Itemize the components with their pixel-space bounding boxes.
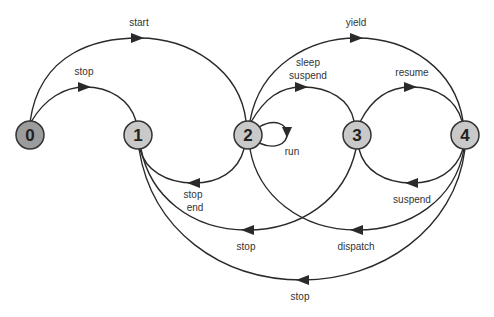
edge-label-start: start: [129, 17, 149, 28]
edge-label-stop-0-1: stop: [75, 66, 94, 77]
node-0: 0: [16, 121, 44, 149]
node-2: 2: [234, 121, 262, 149]
edge-label-dispatch: dispatch: [337, 241, 374, 252]
edge-label-end: end: [187, 202, 204, 213]
edge-label-sleep: sleep: [296, 57, 320, 68]
state-diagram: start stop yield sleep suspend resume ru…: [0, 0, 494, 317]
edge-resume-3-4: resume: [360, 67, 462, 122]
edge-yield-2-4: yield: [250, 17, 463, 121]
node-label-1: 1: [133, 126, 142, 145]
node-4: 4: [451, 121, 479, 149]
edge-label-suspend-2-3: suspend: [289, 70, 327, 81]
edge-sleep-suspend-2-3: sleep suspend: [251, 57, 354, 122]
edge-suspend-4-3: suspend: [359, 149, 463, 205]
node-label-2: 2: [243, 126, 252, 145]
edge-label-stop-3-1: stop: [237, 241, 256, 252]
edge-label-suspend-4-3: suspend: [393, 194, 431, 205]
edge-stop-end-2-1: stop end: [140, 149, 244, 213]
edge-stop-3-1: stop: [141, 149, 356, 252]
edge-label-yield: yield: [346, 17, 367, 28]
edge-run-2-2: run: [259, 123, 299, 157]
edge-label-stop-4-1: stop: [291, 291, 310, 302]
node-label-0: 0: [25, 126, 34, 145]
node-label-4: 4: [460, 126, 470, 145]
edge-label-resume: resume: [395, 67, 429, 78]
edge-start-0-2: start: [30, 17, 246, 122]
edge-label-run: run: [285, 146, 299, 157]
edge-label-stop-2-1: stop: [184, 189, 203, 200]
edge-dispatch-4-2: dispatch: [250, 149, 464, 252]
node-1: 1: [124, 121, 152, 149]
edge-stop-4-1: stop: [139, 149, 465, 302]
node-label-3: 3: [352, 126, 361, 145]
edge-stop-0-1: stop: [31, 66, 136, 122]
node-3: 3: [343, 121, 371, 149]
